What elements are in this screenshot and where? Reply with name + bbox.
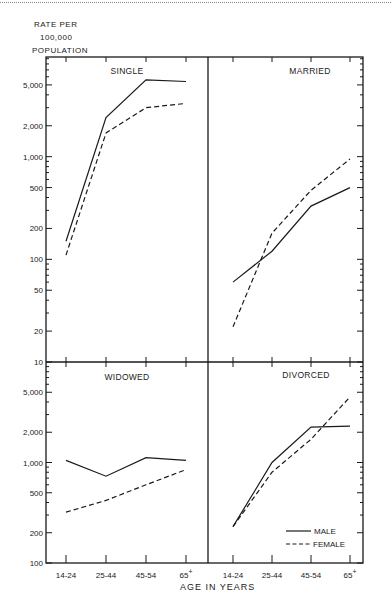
male-series-line [233,426,350,526]
female-series-line [233,159,350,327]
y-tick-label: 200 [30,529,44,538]
y-tick-label: 100 [30,559,44,568]
panel-title: MARRIED [289,66,330,76]
y-tick-label: 5,000 [23,388,44,397]
y-tick-label: 200 [30,224,44,233]
panel-divorced: DIVORCED [233,370,350,527]
legend-male-label: MALE [314,527,336,536]
x-tick-label: 14-24 [56,571,77,580]
chart-frame: 1020501002005001,0002,0005,0001002005001… [23,57,363,580]
y-tick-label: 1,000 [23,459,44,468]
y-tick-label: 5,000 [23,81,44,90]
chart-figure: 1020501002005001,0002,0005,0001002005001… [0,0,391,604]
male-series-line [233,188,350,283]
y-tick-label: 10 [34,358,43,367]
panel-widowed: WIDOWED [66,372,186,512]
panel-title: WIDOWED [104,372,149,382]
x-tick-label: 25-44 [96,571,117,580]
panel-married: MARRIED [233,66,350,327]
x-tick-label: 25-44 [262,571,283,580]
x-tick-label: 45-54 [136,571,157,580]
panel-title: SINGLE [111,66,144,76]
y-tick-label: 2,000 [23,122,44,131]
x-tick-label: 45-54 [301,571,322,580]
y-tick-label: 2,000 [23,428,44,437]
y-tick-label: 500 [30,184,44,193]
y-tick-label: 50 [34,286,43,295]
male-series-line [66,458,186,477]
female-series-line [233,397,350,527]
female-series-line [66,103,186,255]
panel-single: SINGLE [66,66,186,255]
y-tick-label: 20 [34,327,43,336]
male-series-line [66,80,186,241]
y-tick-label: 100 [30,255,44,264]
female-series-line [66,470,186,513]
y-tick-label: 500 [30,489,44,498]
x-tick-label: 65+ [180,568,193,580]
legend: MALEFEMALE [286,527,345,549]
x-tick-label: 14-24 [223,571,244,580]
legend-female-label: FEMALE [313,540,345,549]
x-axis-label: AGE IN YEARS [180,582,255,592]
y-tick-label: 1,000 [23,153,44,162]
x-tick-label: 65+ [344,568,357,580]
panel-title: DIVORCED [282,370,329,380]
